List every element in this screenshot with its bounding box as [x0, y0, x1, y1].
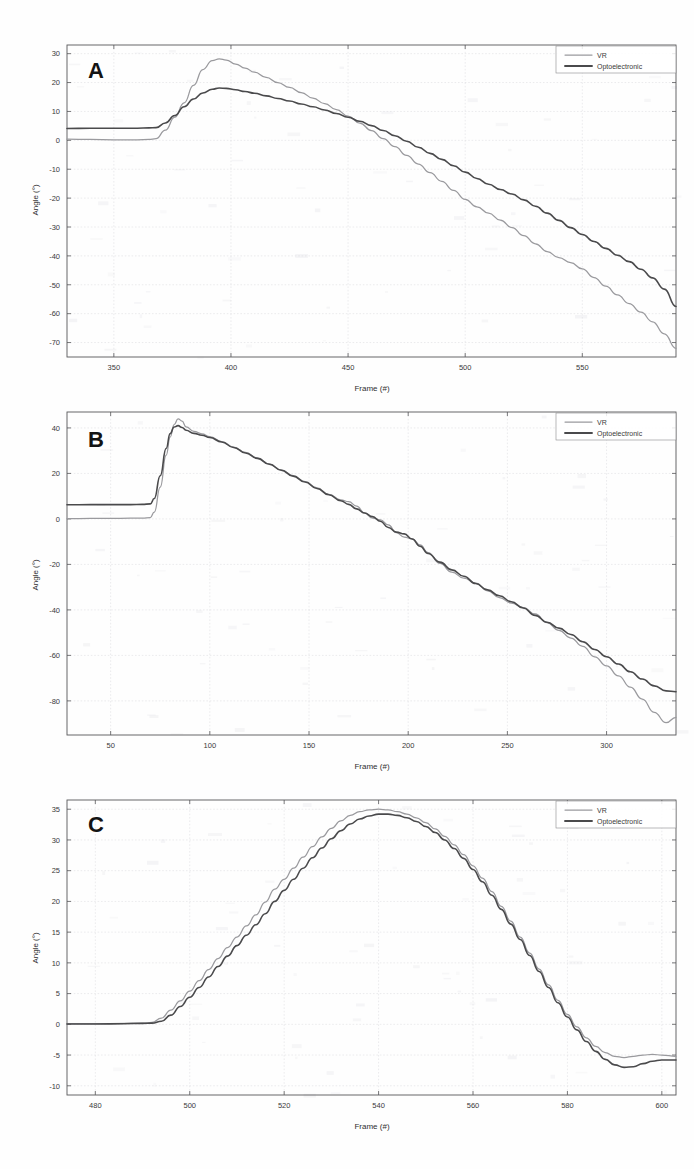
y-tick-label: 5	[56, 989, 60, 998]
x-axis-title: Frame (#)	[354, 762, 389, 771]
y-tick-label: 35	[52, 805, 60, 814]
y-axis-title: Angle (°)	[31, 184, 40, 216]
y-tick-label: -20	[49, 194, 60, 203]
scan-speckle	[268, 823, 272, 824]
scan-speckle	[470, 1002, 476, 1005]
scan-speckle	[153, 1083, 156, 1087]
y-tick-label: 0	[56, 515, 60, 524]
y-tick-label: 15	[52, 928, 60, 937]
scan-speckle	[511, 212, 515, 215]
scan-speckle	[508, 149, 511, 151]
legend-label-vr: VR	[597, 419, 607, 426]
x-tick-label: 150	[303, 741, 316, 750]
x-tick-label: 500	[183, 1101, 196, 1110]
scan-speckle	[598, 587, 610, 588]
scan-speckle	[228, 257, 241, 260]
y-tick-label: -40	[49, 606, 60, 615]
scan-speckle	[160, 210, 167, 213]
scan-speckle	[447, 270, 450, 271]
scan-speckle	[393, 867, 397, 870]
scan-speckle	[246, 344, 252, 347]
scan-speckle	[83, 643, 90, 646]
scan-speckle	[663, 618, 677, 619]
scan-speckle	[192, 1017, 199, 1021]
scan-speckle	[551, 1075, 556, 1079]
panel-a-svg: 3504004505005503020100-10-20-30-40-50-60…	[0, 0, 694, 400]
x-tick-label: 450	[342, 363, 355, 372]
scan-speckle	[456, 972, 460, 975]
scan-speckle	[545, 630, 555, 632]
legend-label-optoelectronic: Optoelectronic	[597, 430, 643, 438]
scan-speckle	[664, 270, 675, 271]
scan-speckle	[604, 498, 608, 500]
panel-c-svg: 48050052054056058060035302520151050-5-10…	[0, 780, 694, 1169]
scan-speckle	[88, 966, 100, 967]
scan-speckle	[462, 898, 469, 901]
scan-speckle	[437, 528, 447, 529]
y-tick-label: -80	[49, 697, 60, 706]
scan-speckle	[138, 421, 143, 425]
series-line-optoelectronic	[67, 426, 676, 692]
scan-speckle	[171, 733, 183, 734]
scan-speckle	[618, 922, 625, 926]
scan-speckle	[208, 204, 216, 207]
scan-speckle	[381, 111, 393, 114]
scan-speckle	[649, 76, 661, 78]
scan-speckle	[265, 881, 274, 883]
series-line-optoelectronic	[67, 814, 676, 1067]
scan-speckle	[150, 715, 159, 718]
scan-speckle	[651, 668, 663, 672]
scan-speckle	[103, 512, 115, 514]
y-tick-label: -10	[49, 1082, 60, 1091]
x-tick-label: 400	[225, 363, 238, 372]
x-tick-label: 600	[656, 1101, 669, 1110]
scan-speckle	[578, 474, 586, 478]
figure-container: 3504004505005503020100-10-20-30-40-50-60…	[0, 0, 694, 1169]
scan-speckle	[223, 300, 232, 302]
scan-speckle	[254, 117, 256, 119]
scan-speckle	[512, 225, 522, 226]
scan-speckle	[582, 560, 590, 561]
y-tick-label: 0	[56, 1020, 60, 1029]
x-tick-label: 300	[600, 741, 613, 750]
scan-speckle	[77, 86, 84, 87]
scan-speckle	[568, 687, 575, 691]
scan-speckle	[315, 209, 320, 213]
panel-b-plot: 5010015020025030040200-20-40-60-80Frame …	[31, 412, 688, 771]
y-tick-label: -20	[49, 560, 60, 569]
x-tick-label: 580	[561, 1101, 574, 1110]
scan-speckle	[474, 709, 486, 712]
scan-speckle	[113, 1067, 125, 1071]
scan-speckle	[239, 571, 250, 573]
scan-speckle	[275, 502, 281, 505]
scan-speckle	[569, 956, 574, 958]
x-tick-label: 480	[89, 1101, 102, 1110]
scan-speckle	[144, 325, 152, 328]
scan-speckle	[385, 291, 388, 293]
scan-speckle	[90, 238, 103, 240]
scan-speckle	[573, 486, 585, 489]
legend-label-optoelectronic: Optoelectronic	[597, 63, 643, 71]
scan-speckle	[534, 551, 543, 555]
scan-speckle	[486, 998, 497, 1001]
x-tick-label: 50	[106, 741, 114, 750]
x-tick-label: 100	[204, 741, 217, 750]
x-tick-label: 200	[402, 741, 415, 750]
scan-speckle	[102, 871, 105, 875]
x-tick-label: 550	[576, 363, 589, 372]
scan-speckle	[522, 543, 526, 545]
scan-speckle	[216, 927, 228, 930]
y-tick-label: 20	[52, 469, 60, 478]
scan-speckle	[335, 607, 343, 608]
x-tick-label: 250	[501, 741, 514, 750]
scan-speckle	[327, 307, 331, 309]
scan-speckle	[616, 666, 618, 668]
scan-speckle	[508, 1056, 517, 1060]
panel-a-plot: 3504004505005503020100-10-20-30-40-50-60…	[31, 45, 682, 393]
scan-speckle	[247, 101, 251, 105]
scan-speckle	[235, 728, 245, 732]
plot-frame	[67, 45, 676, 357]
scan-speckle	[137, 575, 139, 577]
scan-speckle	[675, 730, 688, 734]
scan-speckle	[295, 1057, 297, 1060]
